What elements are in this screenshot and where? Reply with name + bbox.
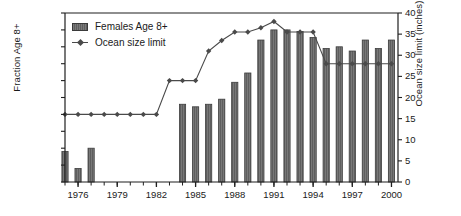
line-marker	[141, 112, 146, 117]
bar-1992	[284, 30, 290, 182]
line-marker	[115, 112, 120, 117]
bar-1977	[88, 148, 94, 182]
bar-1988	[232, 82, 238, 182]
legend-item-ocean-size-limit: Ocean size limit	[72, 36, 168, 49]
bar-swatch-icon	[72, 23, 88, 31]
bar-1999	[375, 48, 381, 182]
line-marker	[258, 25, 263, 30]
bar-1995	[323, 48, 329, 182]
plot-area	[0, 0, 461, 216]
chart-figure: Fraction Age 8+ Ocean size limit (inches…	[0, 0, 461, 216]
legend-item-females: Females Age 8+	[72, 20, 168, 33]
line-marker	[193, 78, 198, 83]
bar-1989	[245, 73, 251, 182]
bar-1985	[192, 107, 198, 182]
bar-1996	[336, 47, 342, 182]
bar-1993	[297, 32, 303, 182]
line-marker	[310, 29, 315, 34]
line-marker	[232, 29, 237, 34]
line-marker	[128, 112, 133, 117]
bar-1991	[271, 30, 277, 182]
bar-1984	[179, 104, 185, 182]
line-marker	[167, 78, 172, 83]
bar-1987	[219, 99, 225, 182]
line-diamond-swatch-icon	[72, 39, 88, 47]
line-marker	[245, 29, 250, 34]
bar-1976	[75, 168, 81, 182]
legend-label-females: Females Age 8+	[95, 21, 168, 32]
bar-1997	[349, 51, 355, 182]
line-marker	[101, 112, 106, 117]
line-marker	[154, 112, 159, 117]
line-marker	[75, 112, 80, 117]
bar-1986	[206, 104, 212, 182]
legend-label-ocean-size-limit: Ocean size limit	[95, 37, 166, 48]
line-marker	[88, 112, 93, 117]
chart-legend: Females Age 8+ Ocean size limit	[72, 20, 168, 52]
line-marker	[180, 78, 185, 83]
bar-1990	[258, 40, 264, 182]
bar-1994	[310, 38, 316, 183]
